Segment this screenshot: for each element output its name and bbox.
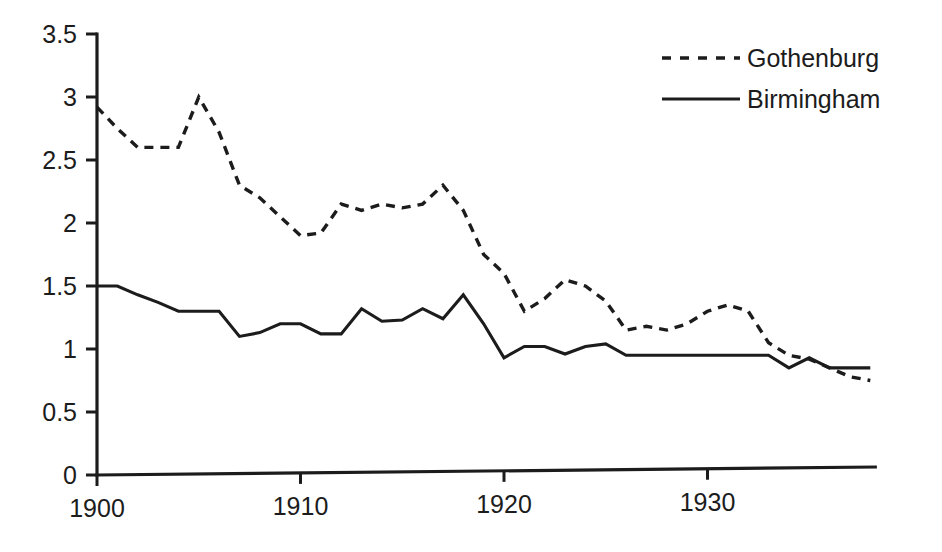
y-axis-tick-label: 2.5 <box>42 146 77 174</box>
x-axis-tick-label: 1930 <box>680 488 736 516</box>
y-axis-tick-label: 3 <box>63 83 77 111</box>
y-axis-tick-label: 1 <box>63 335 77 363</box>
y-axis-tick-label: 3.5 <box>42 20 77 48</box>
y-axis-tick-label: 0 <box>63 461 77 489</box>
legend-label-gothenburg: Gothenburg <box>747 44 879 72</box>
x-axis-tick-label: 1900 <box>69 494 125 522</box>
legend-label-birmingham: Birmingham <box>747 85 880 113</box>
chart-container: 00.511.522.533.5 1900191019201930 Gothen… <box>0 0 942 552</box>
line-chart: 00.511.522.533.5 1900191019201930 Gothen… <box>0 0 942 552</box>
x-axis-tick-label: 1910 <box>273 492 329 520</box>
x-axis-tick-label: 1920 <box>476 490 532 518</box>
y-axis-tick-label: 2 <box>63 209 77 237</box>
y-axis-tick-label: 0.5 <box>42 398 77 426</box>
y-axis-tick-label: 1.5 <box>42 272 77 300</box>
